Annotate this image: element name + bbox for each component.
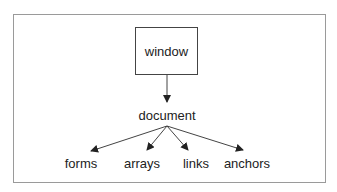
object-hierarchy-diagram: window document forms arrays links ancho…: [0, 0, 337, 192]
document-label: document: [138, 108, 195, 123]
document-to-anchors-arrow: [167, 126, 243, 150]
window-label: window: [144, 44, 189, 59]
document-to-forms-arrow: [91, 126, 167, 151]
forms-label: forms: [65, 156, 98, 171]
arrays-label: arrays: [124, 156, 161, 171]
links-label: links: [183, 156, 210, 171]
anchors-label: anchors: [224, 156, 271, 171]
window-node: window: [136, 28, 198, 75]
